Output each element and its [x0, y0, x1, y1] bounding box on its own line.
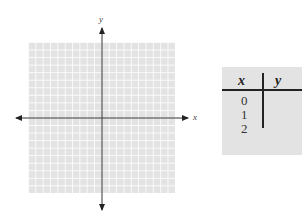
table-cell-x: 2: [241, 121, 248, 137]
table-header-y: y: [275, 73, 281, 89]
xy-table: x y 0 1 2: [222, 67, 302, 155]
x-axis-label: x: [193, 112, 197, 122]
table-divider-vertical: [262, 73, 264, 128]
table-header-x: x: [238, 73, 245, 89]
y-axis-label: y: [99, 14, 103, 24]
